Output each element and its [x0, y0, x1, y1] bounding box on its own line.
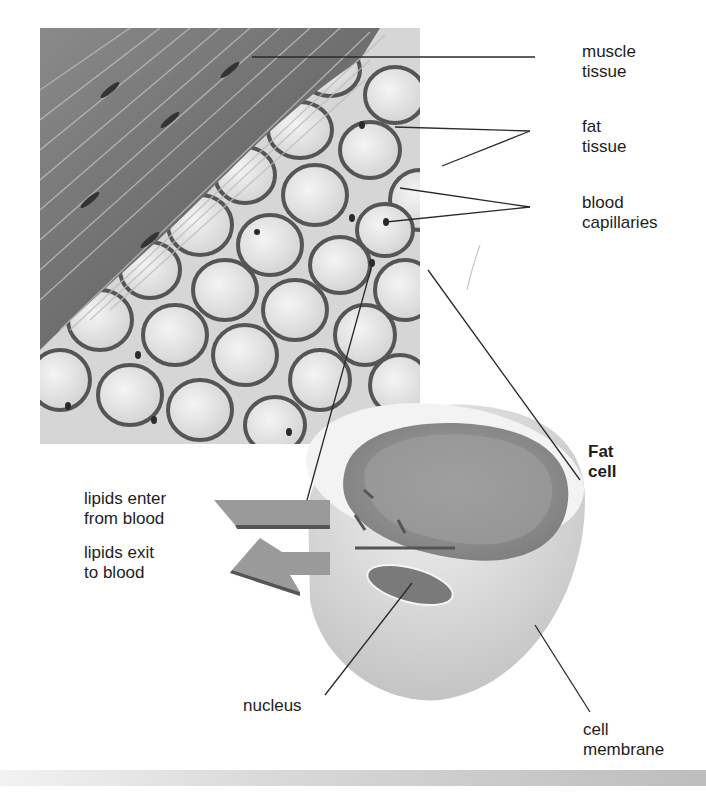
label-muscle-tissue: muscle tissue	[582, 42, 636, 82]
label-lipids-enter: lipids enter from blood	[84, 489, 166, 529]
lipids-enter-arrow	[214, 500, 330, 525]
fat-cell-cutaway	[297, 386, 594, 700]
tissue-block	[30, 28, 450, 453]
bottom-divider-bar	[0, 770, 706, 786]
label-lipids-exit: lipids exit to blood	[84, 543, 154, 583]
label-nucleus: nucleus	[243, 696, 302, 716]
fat-cell-diagram: muscle tissue fat tissue blood capillari…	[0, 0, 706, 800]
label-blood-capillaries: blood capillaries	[582, 193, 658, 233]
label-fat-tissue: fat tissue	[582, 117, 626, 157]
label-fat-cell: Fat cell	[588, 442, 616, 482]
label-cell-membrane: cell membrane	[583, 720, 664, 760]
